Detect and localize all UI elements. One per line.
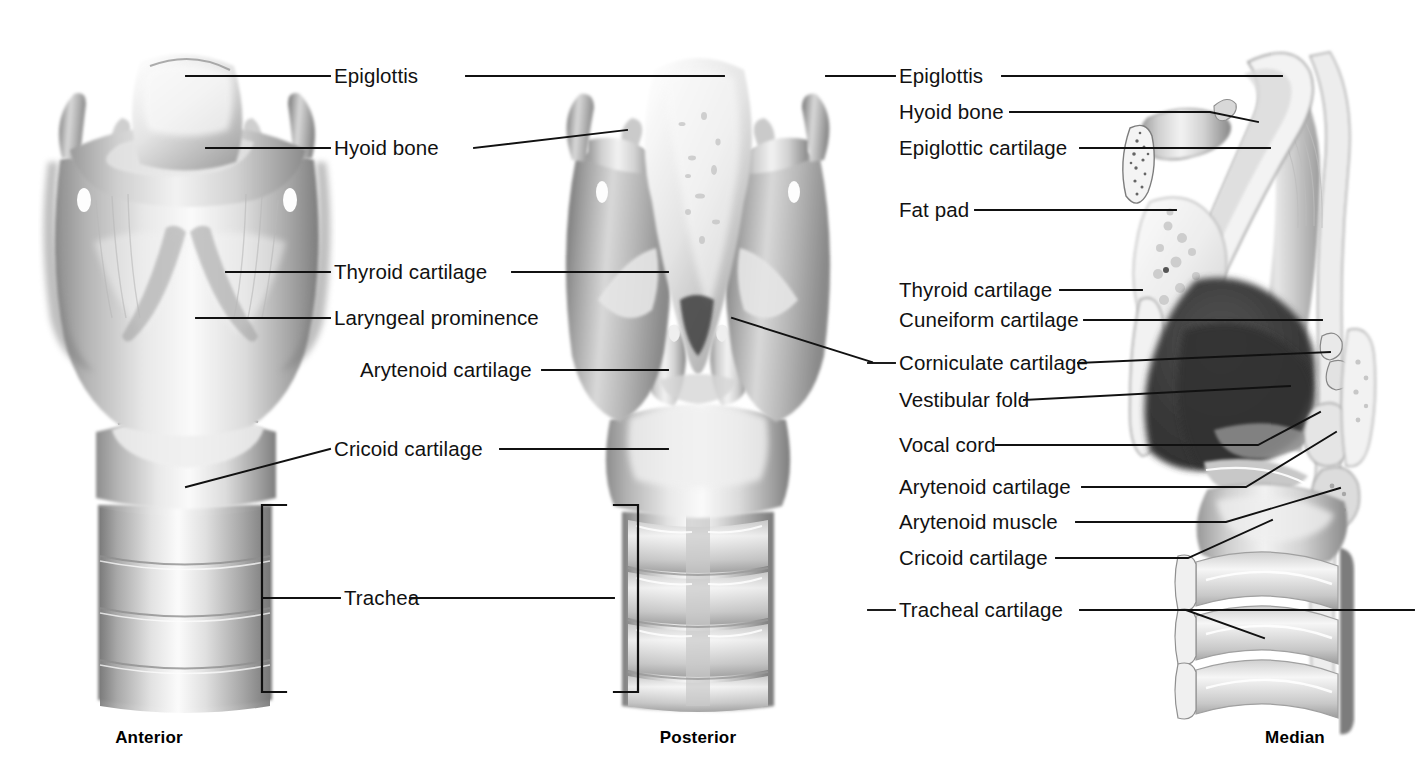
anterior-larynx-illustration bbox=[43, 54, 330, 713]
label-corniculate-cartilage: Corniculate cartilage bbox=[899, 353, 1088, 374]
label-arytenoid-cartilage-left: Arytenoid cartilage bbox=[360, 360, 532, 381]
label-trachea: Trachea bbox=[344, 588, 419, 609]
caption-anterior: Anterior bbox=[115, 728, 183, 748]
label-epiglottic-cartilage: Epiglottic cartilage bbox=[899, 138, 1067, 159]
label-thyroid-cartilage-left: Thyroid cartilage bbox=[334, 262, 487, 283]
label-vocal-cord: Vocal cord bbox=[899, 435, 996, 456]
caption-posterior: Posterior bbox=[660, 728, 736, 748]
label-vestibular-fold: Vestibular fold bbox=[899, 390, 1029, 411]
label-epiglottis-right: Epiglottis bbox=[899, 66, 983, 87]
posterior-larynx-illustration bbox=[566, 58, 830, 712]
label-laryngeal-prominence: Laryngeal prominence bbox=[334, 308, 539, 329]
figure-canvas: Epiglottis Hyoid bone Thyroid cartilage … bbox=[0, 0, 1419, 778]
label-cuneiform-cartilage: Cuneiform cartilage bbox=[899, 310, 1079, 331]
label-cricoid-cartilage-left: Cricoid cartilage bbox=[334, 439, 483, 460]
label-arytenoid-muscle: Arytenoid muscle bbox=[899, 512, 1058, 533]
illustration-layer bbox=[0, 0, 1419, 778]
caption-median: Median bbox=[1265, 728, 1325, 748]
label-arytenoid-cartilage-right: Arytenoid cartilage bbox=[899, 477, 1071, 498]
label-tracheal-cartilage: Tracheal cartilage bbox=[899, 600, 1063, 621]
label-epiglottis-left: Epiglottis bbox=[334, 66, 418, 87]
label-hyoid-bone-left: Hyoid bone bbox=[334, 138, 439, 159]
label-thyroid-cartilage-right: Thyroid cartilage bbox=[899, 280, 1052, 301]
label-cricoid-cartilage-right: Cricoid cartilage bbox=[899, 548, 1048, 569]
label-fat-pad: Fat pad bbox=[899, 200, 969, 221]
label-hyoid-bone-right: Hyoid bone bbox=[899, 102, 1004, 123]
